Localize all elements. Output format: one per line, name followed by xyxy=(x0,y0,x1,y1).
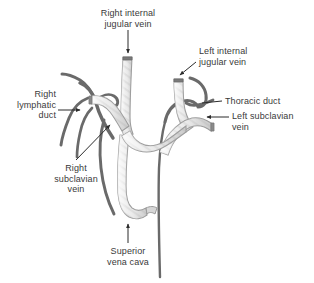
lymphatic-drainage-diagram: Right internaljugular vein Left internal… xyxy=(0,0,314,283)
label-left-internal-jugular-vein: Left internaljugular vein xyxy=(199,46,311,67)
label-line: vena cava xyxy=(107,257,149,267)
label-line: Left internal xyxy=(199,46,247,56)
label-line: jugular vein xyxy=(199,57,246,67)
label-line: vein xyxy=(232,122,249,132)
label-line: Left subclavian xyxy=(232,111,294,121)
label-right-lymphatic-duct: Rightlymphaticduct xyxy=(2,89,56,121)
label-line: vein xyxy=(68,184,85,194)
label-line: duct xyxy=(39,110,56,120)
label-superior-vena-cava: Superiorvena cava xyxy=(80,246,176,267)
label-line: subclavian xyxy=(54,174,98,184)
label-line: Superior xyxy=(111,246,146,256)
label-right-internal-jugular-vein: Right internaljugular vein xyxy=(78,8,178,29)
diagram-canvas xyxy=(0,0,314,283)
right-subclavian-vein-cut-end xyxy=(89,96,92,104)
label-line: Thoracic duct xyxy=(225,96,280,106)
superior-vena-cava-stump xyxy=(146,207,157,215)
label-left-subclavian-vein: Left subclavianvein xyxy=(232,111,314,132)
right-internal-jugular-vein-cut-end xyxy=(123,57,132,60)
label-thoracic-duct: Thoracic duct xyxy=(225,96,313,107)
left-internal-jugular-vein-cut-end xyxy=(174,79,183,82)
label-line: lymphatic xyxy=(17,100,56,110)
label-right-subclavian-vein: Rightsubclavianvein xyxy=(33,163,119,195)
label-line: Right xyxy=(34,89,56,99)
label-line: Right xyxy=(65,163,87,173)
left-subclavian-vein-cut-end xyxy=(211,123,214,131)
label-line: jugular vein xyxy=(104,19,151,29)
right-lymphatic-duct-lower-tributary xyxy=(77,108,92,157)
leader-left-internal-jugular-vein xyxy=(180,62,196,75)
left-subclavian-vein-shading xyxy=(160,118,211,155)
label-line: Right internal xyxy=(101,8,155,18)
